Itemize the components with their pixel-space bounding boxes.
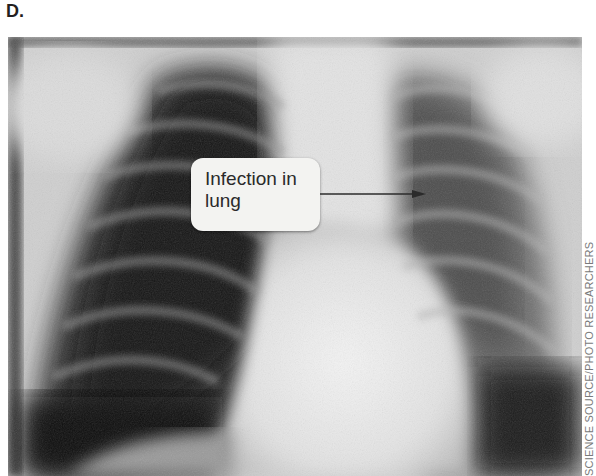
callout-line-1: Infection in	[205, 168, 320, 190]
pointer-arrow-icon	[320, 189, 426, 199]
chest-xray-image	[8, 37, 582, 476]
callout-line-2: lung	[205, 190, 320, 212]
photo-credit: SCIENCE SOURCE/PHOTO RESEARCHERS	[583, 232, 595, 476]
annotation-callout: Infection in lung	[191, 158, 320, 231]
panel-label: D.	[6, 1, 24, 22]
